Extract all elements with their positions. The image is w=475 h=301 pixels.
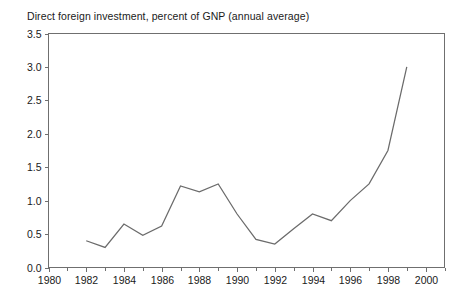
x-axis-ticks (50, 268, 446, 272)
y-tick-label: 2.0 (27, 128, 42, 140)
plot-border (49, 34, 445, 268)
x-tick-label: 1982 (75, 274, 99, 286)
x-tick-label: 1994 (302, 274, 326, 286)
line-chart-plot: 0.00.51.01.52.02.53.03.5 198019821984198… (0, 0, 475, 301)
x-tick-label: 1998 (377, 274, 401, 286)
x-tick-label: 1988 (188, 274, 212, 286)
chart-axes (49, 34, 445, 268)
x-tick-label: 1980 (38, 274, 62, 286)
x-tick-label: 1992 (264, 274, 288, 286)
y-tick-label: 0.0 (27, 262, 42, 274)
y-tick-label: 1.0 (27, 195, 42, 207)
x-tick-label: 1984 (113, 274, 137, 286)
data-series-group (86, 67, 407, 248)
y-axis-tick-labels: 0.00.51.01.52.02.53.03.5 (27, 28, 42, 274)
y-tick-label: 0.5 (27, 228, 42, 240)
data-line-series (86, 67, 407, 248)
x-tick-label: 1996 (339, 274, 363, 286)
x-tick-label: 2000 (415, 274, 439, 286)
y-tick-label: 3.5 (27, 28, 42, 40)
x-tick-label: 1990 (226, 274, 250, 286)
chart-figure: Direct foreign investment, percent of GN… (0, 0, 475, 301)
y-tick-label: 2.5 (27, 94, 42, 106)
y-axis-ticks (45, 35, 49, 269)
y-tick-label: 3.0 (27, 61, 42, 73)
x-axis-tick-labels: 1980198219841986198819901992199419961998… (38, 274, 439, 286)
x-tick-label: 1986 (151, 274, 175, 286)
y-tick-label: 1.5 (27, 161, 42, 173)
